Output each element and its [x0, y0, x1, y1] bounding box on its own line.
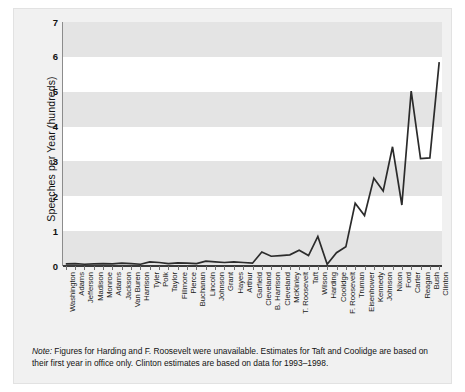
x-tick-mark — [234, 266, 235, 270]
x-tick-label-coolidge: Coolidge — [340, 272, 348, 302]
x-tick-label-monroe: Monroe — [106, 272, 114, 298]
x-tick-label-lincoln: Lincoln — [209, 272, 217, 296]
x-tick-mark — [243, 266, 244, 270]
x-tick-mark — [168, 266, 169, 270]
x-tick-label-hayes: Hayes — [237, 272, 245, 294]
x-tick-label-johnson: Johnson — [218, 272, 226, 301]
x-tick-label-taft: Taft — [312, 272, 320, 284]
x-tick-label-harding: Harding — [330, 272, 338, 299]
x-tick-mark — [75, 266, 76, 270]
x-tick-mark — [112, 266, 113, 270]
x-tick-mark — [159, 266, 160, 270]
x-tick-label-harrison: Harrison — [143, 272, 151, 301]
x-tick-label-arthur: Arthur — [246, 272, 254, 293]
x-tick-mark — [281, 266, 282, 270]
x-tick-mark — [94, 266, 95, 270]
speeches-per-year-line — [66, 62, 439, 264]
x-tick-label-carter: Carter — [414, 272, 422, 293]
x-tick-label-eisenhower: Eisenhower — [368, 272, 376, 312]
x-tick-mark — [421, 266, 422, 270]
x-tick-label-jackson: Jackson — [125, 272, 133, 300]
data-line-svg — [63, 22, 442, 266]
x-tick-label-clinton: Clinton — [442, 272, 450, 296]
x-tick-mark — [327, 266, 328, 270]
x-tick-mark — [299, 266, 300, 270]
x-tick-mark — [411, 266, 412, 270]
x-tick-mark — [290, 266, 291, 270]
x-tick-label-mckinley: McKinley — [293, 272, 301, 303]
x-tick-mark — [122, 266, 123, 270]
x-tick-label-cleveland: Cleveland — [284, 272, 292, 306]
x-tick-mark — [271, 266, 272, 270]
x-tick-mark — [84, 266, 85, 270]
x-tick-mark — [439, 266, 440, 270]
y-axis-title-holder: Speeches per Year (hundreds) — [24, 0, 38, 290]
x-tick-label-grant: Grant — [227, 272, 235, 291]
x-tick-mark — [187, 266, 188, 270]
x-tick-mark — [430, 266, 431, 270]
x-tick-label-adams: Adams — [78, 272, 86, 296]
x-tick-mark — [393, 266, 394, 270]
x-tick-mark — [140, 266, 141, 270]
x-tick-mark — [150, 266, 151, 270]
x-tick-label-jefferson: Jefferson — [87, 272, 95, 303]
x-tick-mark — [262, 266, 263, 270]
x-tick-label-cleveland: Cleveland — [265, 272, 273, 306]
x-tick-label-nixon: Nixon — [396, 272, 404, 291]
x-tick-mark — [383, 266, 384, 270]
x-tick-label-johnson: Johnson — [386, 272, 394, 301]
x-tick-mark — [253, 266, 254, 270]
x-tick-label-van-buren: Van Buren — [134, 272, 142, 307]
x-tick-mark — [215, 266, 216, 270]
x-tick-mark — [318, 266, 319, 270]
x-tick-mark — [402, 266, 403, 270]
x-tick-label-t-roosevelt: T. Roosevelt — [302, 272, 310, 314]
chart-figure: 76543210 Speeches per Year (hundreds) Wa… — [0, 0, 465, 392]
note-text: Figures for Harding and F. Roosevelt wer… — [32, 346, 428, 368]
x-tick-label-f-roosevelt: F. Roosevelt — [349, 272, 357, 314]
x-tick-mark — [66, 266, 67, 270]
x-tick-label-b-harrison: B. Harrison — [274, 272, 282, 310]
x-tick-label-madison: Madison — [97, 272, 105, 301]
x-tick-label-garfield: Garfield — [256, 272, 264, 299]
x-tick-labels: WashingtonAdamsJeffersonMadisonMonroeAda… — [63, 272, 442, 334]
x-tick-label-buchanan: Buchanan — [199, 272, 207, 306]
x-tick-label-bush: Bush — [433, 272, 441, 289]
x-tick-label-polk: Polk — [162, 272, 170, 287]
x-tick-mark — [337, 266, 338, 270]
x-tick-mark — [365, 266, 366, 270]
x-tick-label-kennedy: Kennedy — [377, 272, 385, 302]
x-tick-label-washington: Washington — [69, 272, 77, 312]
x-tick-label-fillmore: Fillmore — [181, 272, 189, 299]
x-tick-mark — [224, 266, 225, 270]
x-tick-mark — [355, 266, 356, 270]
x-tick-mark — [196, 266, 197, 270]
y-axis-title: Speeches per Year (hundreds) — [45, 59, 57, 239]
x-tick-mark — [178, 266, 179, 270]
x-tick-label-adams: Adams — [115, 272, 123, 296]
x-tick-label-taylor: Taylor — [171, 272, 179, 292]
x-tick-label-tyler: Tyler — [153, 272, 161, 288]
x-tick-mark — [131, 266, 132, 270]
x-tick-label-wilson: Wilson — [321, 272, 329, 295]
x-tick-mark — [346, 266, 347, 270]
x-tick-mark — [103, 266, 104, 270]
figure-note: Note: Figures for Harding and F. Rooseve… — [32, 345, 434, 369]
x-tick-label-pierce: Pierce — [190, 272, 198, 294]
x-tick-mark — [374, 266, 375, 270]
x-tick-label-reagan: Reagan — [424, 272, 432, 299]
x-tick-label-truman: Truman — [358, 272, 366, 298]
note-label: Note: — [32, 346, 52, 356]
x-tick-mark — [309, 266, 310, 270]
x-tick-label-ford: Ford — [405, 272, 413, 288]
x-tick-mark — [206, 266, 207, 270]
